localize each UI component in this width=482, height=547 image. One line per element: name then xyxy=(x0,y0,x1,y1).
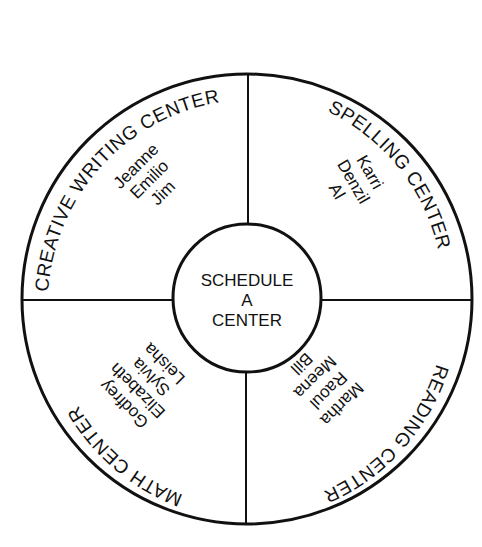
hub: SCHEDULE A CENTER xyxy=(173,224,321,372)
schedule-wheel-diagram: SCHEDULE A CENTER CREATIVE WRITING CENTE… xyxy=(0,0,482,547)
hub-line-1: SCHEDULE xyxy=(201,271,294,290)
hub-line-2: A xyxy=(241,291,253,310)
hub-line-3: CENTER xyxy=(212,311,282,330)
